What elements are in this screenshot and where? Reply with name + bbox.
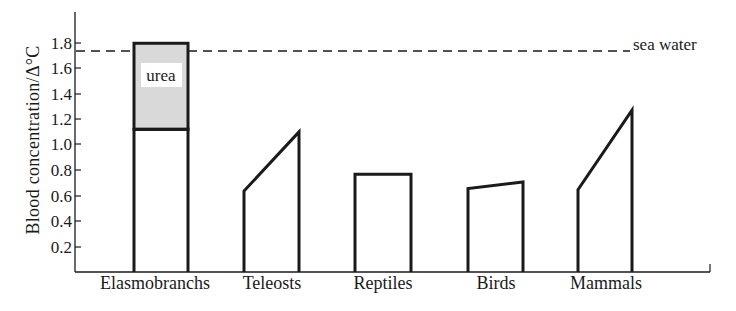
y-tick: 1.4 (51, 85, 81, 104)
y-tick-label: 0.8 (51, 161, 72, 180)
chart-canvas: Blood concentration/Δ°C 0.2 0.4 0.6 0.8 … (0, 0, 736, 311)
bar-outline (578, 110, 632, 272)
y-tick-label: 0.6 (51, 187, 72, 206)
x-category-labels: Elasmobranchs Teleosts Reptiles Birds Ma… (100, 273, 642, 293)
urea-label: urea (146, 66, 176, 85)
y-tick-label: 1.2 (51, 110, 72, 129)
bar-outline (355, 174, 411, 272)
category-label-teleosts: Teleosts (243, 273, 302, 293)
y-tick: 1.8 (51, 34, 81, 53)
y-tick: 0.8 (51, 161, 81, 180)
y-tick-label: 0.2 (51, 238, 72, 257)
y-tick: 0.2 (51, 238, 81, 257)
y-tick: 1.6 (51, 59, 81, 78)
sea-water-label: sea water (633, 35, 697, 54)
category-label-reptiles: Reptiles (354, 273, 413, 293)
bar-outline (468, 182, 523, 272)
y-ticks: 0.2 0.4 0.6 0.8 1.0 1.2 1.4 1.6 1.8 (51, 34, 81, 257)
category-label-elasmobranchs: Elasmobranchs (100, 273, 210, 293)
urea-annotation: urea (141, 63, 182, 87)
y-tick-label: 1.8 (51, 34, 72, 53)
bar-teleosts (244, 132, 299, 272)
category-label-birds: Birds (476, 273, 515, 293)
y-tick: 0.4 (51, 212, 81, 231)
bars (134, 43, 632, 272)
bar-birds (468, 182, 523, 272)
bar-outline (244, 132, 299, 272)
y-tick: 1.2 (51, 110, 81, 129)
y-tick-label: 1.6 (51, 59, 72, 78)
y-axis-label: Blood concentration/Δ°C (23, 45, 43, 234)
y-tick: 1.0 (51, 135, 81, 154)
y-tick-label: 1.4 (51, 85, 73, 104)
bar-reptiles (355, 174, 411, 272)
bar-mammals (578, 110, 632, 272)
category-label-mammals: Mammals (570, 273, 642, 293)
y-tick-label: 0.4 (51, 212, 73, 231)
y-tick: 0.6 (51, 187, 81, 206)
bar-outline (134, 129, 188, 272)
y-tick-label: 1.0 (51, 135, 72, 154)
